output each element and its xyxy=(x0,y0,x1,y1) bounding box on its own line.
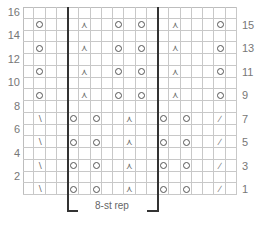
row-label-right: 3 xyxy=(242,160,255,172)
yo-icon xyxy=(136,89,147,101)
chart-cell xyxy=(136,172,147,184)
chart-cell xyxy=(158,101,169,113)
ssk-icon: ∖ xyxy=(34,136,45,148)
chart-cell xyxy=(91,19,102,31)
yo-icon xyxy=(91,160,102,172)
chart-cell xyxy=(192,172,203,184)
chart-cell xyxy=(192,160,203,172)
chart-cell xyxy=(169,7,180,19)
chart-cell xyxy=(181,66,192,78)
chart-cell xyxy=(214,54,225,66)
yo-icon xyxy=(91,113,102,125)
chart-cell xyxy=(226,19,237,31)
chart-cell xyxy=(91,66,102,78)
chart-cell xyxy=(79,78,90,90)
chart-cell xyxy=(192,101,203,113)
chart-cell xyxy=(113,136,124,148)
row-label-right: 7 xyxy=(242,113,255,125)
chart-cell xyxy=(113,31,124,43)
yo-icon xyxy=(136,66,147,78)
yo-icon xyxy=(181,160,192,172)
chart-cell xyxy=(136,101,147,113)
chart-cell xyxy=(124,66,135,78)
chart-cell xyxy=(124,89,135,101)
chart-cell xyxy=(46,172,57,184)
chart-cell xyxy=(192,125,203,137)
chart-cell xyxy=(34,31,45,43)
chart-cell xyxy=(91,42,102,54)
chart-cell xyxy=(68,54,79,66)
chart-cell xyxy=(102,113,113,125)
yo-icon xyxy=(34,42,45,54)
chart-cell xyxy=(203,7,214,19)
row-label-left: 4 xyxy=(0,147,20,159)
chart-cell xyxy=(68,125,79,137)
cdd-icon: ⋏ xyxy=(124,113,135,125)
chart-cell xyxy=(124,78,135,90)
row-label-right: 1 xyxy=(242,183,255,195)
yo-icon xyxy=(68,136,79,148)
chart-cell xyxy=(113,125,124,137)
yo-icon xyxy=(113,19,124,31)
chart-cell xyxy=(124,54,135,66)
yo-icon xyxy=(34,66,45,78)
row-label-left: 2 xyxy=(0,170,20,182)
chart-cell xyxy=(102,172,113,184)
repeat-line-right xyxy=(157,7,159,212)
chart-cell xyxy=(203,183,214,195)
chart-cell xyxy=(169,78,180,90)
chart-cell xyxy=(203,54,214,66)
chart-cell xyxy=(46,31,57,43)
chart-cell xyxy=(46,54,57,66)
chart-cell xyxy=(124,19,135,31)
ssk-icon: ∖ xyxy=(34,183,45,195)
chart-cell xyxy=(214,31,225,43)
chart-cell xyxy=(214,101,225,113)
chart-cell xyxy=(226,78,237,90)
chart-cell xyxy=(226,148,237,160)
chart-cell xyxy=(102,183,113,195)
yo-icon xyxy=(113,89,124,101)
yo-icon xyxy=(214,42,225,54)
chart-cell xyxy=(203,136,214,148)
chart-cell xyxy=(79,148,90,160)
row-label-right: 13 xyxy=(242,42,255,54)
chart-cell xyxy=(79,54,90,66)
chart-cell xyxy=(23,113,34,125)
yo-icon xyxy=(181,136,192,148)
chart-cell xyxy=(113,78,124,90)
chart-cell xyxy=(192,66,203,78)
row-label-left: 6 xyxy=(0,123,20,135)
chart-cell xyxy=(102,125,113,137)
chart-cell xyxy=(91,125,102,137)
chart-cell xyxy=(79,136,90,148)
chart-cell xyxy=(79,31,90,43)
chart-cell xyxy=(169,31,180,43)
chart-cell xyxy=(79,113,90,125)
yo-icon xyxy=(34,19,45,31)
chart-cell xyxy=(102,101,113,113)
chart-cell xyxy=(226,66,237,78)
chart-cell xyxy=(23,19,34,31)
chart-cell xyxy=(124,125,135,137)
yo-icon xyxy=(214,89,225,101)
chart-cell xyxy=(192,183,203,195)
chart-cell xyxy=(23,7,34,19)
chart-cell xyxy=(181,42,192,54)
chart-cell xyxy=(226,172,237,184)
chart-cell xyxy=(226,89,237,101)
row-label-left: 10 xyxy=(0,76,20,88)
chart-cell xyxy=(136,54,147,66)
chart-cell xyxy=(203,89,214,101)
chart-cell xyxy=(214,78,225,90)
chart-cell xyxy=(46,183,57,195)
chart-cell xyxy=(91,101,102,113)
chart-cell xyxy=(124,101,135,113)
chart-cell xyxy=(68,148,79,160)
chart-cell xyxy=(23,160,34,172)
chart-cell xyxy=(192,42,203,54)
yo-icon xyxy=(136,19,147,31)
k2tog-icon: ∕ xyxy=(214,183,225,195)
repeat-label: 8-st rep xyxy=(95,200,129,211)
chart-cell xyxy=(136,31,147,43)
